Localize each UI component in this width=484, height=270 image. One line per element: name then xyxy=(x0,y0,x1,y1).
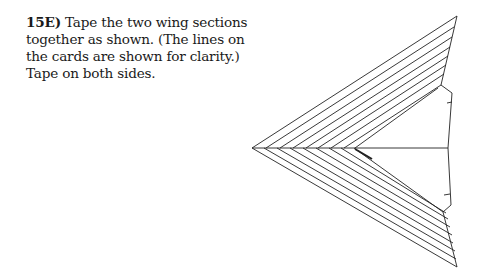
bottom-wing-section xyxy=(252,148,457,267)
top-wing-section xyxy=(252,16,457,148)
wing-diagram xyxy=(0,0,484,270)
